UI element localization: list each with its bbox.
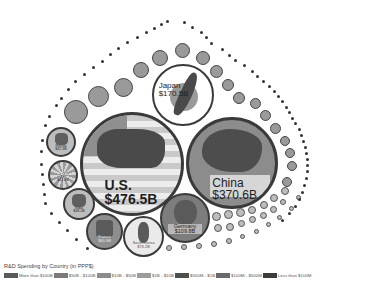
dot-marker: [67, 88, 70, 91]
dot-marker: [243, 64, 246, 67]
dot-marker: [42, 183, 45, 186]
us-map-icon: [97, 129, 166, 168]
small-bubble: [114, 78, 133, 97]
small-bubble: [64, 100, 88, 124]
dot-marker: [256, 75, 259, 78]
legend-item: More than $100B: [4, 273, 53, 278]
dot-marker: [288, 111, 291, 114]
small-bubble: [260, 110, 271, 121]
small-bubble: [175, 43, 190, 58]
tiny-bubble: [212, 212, 221, 221]
china-map-icon: [202, 129, 262, 172]
dot-marker: [228, 54, 231, 57]
dot-marker: [301, 191, 304, 194]
dot-marker: [305, 177, 308, 180]
bubble-label: France $60.8B: [88, 235, 121, 243]
dot-marker: [306, 170, 309, 173]
bubble-label: India $48.1B: [65, 207, 93, 214]
dot-marker: [251, 70, 254, 73]
tiny-bubble: [226, 223, 234, 231]
tiny-bubble: [236, 208, 245, 217]
bubble-germany: Germany $109.8B: [160, 193, 210, 243]
bubble-label: Japan $170.5B: [159, 82, 189, 98]
country-value: $48.1B: [65, 210, 93, 214]
legend-swatch: [4, 273, 18, 278]
dot-marker: [200, 31, 203, 34]
tiny-bubble: [249, 216, 256, 223]
legend-swatch: [175, 273, 189, 278]
small-bubble: [152, 50, 168, 66]
dot-marker: [268, 85, 271, 88]
dot-marker: [83, 73, 86, 76]
tiny-bubble: [240, 234, 245, 239]
legend-swatch: [97, 273, 111, 278]
tiny-bubble: [248, 206, 256, 214]
tiny-bubble: [226, 238, 232, 244]
tiny-bubble: [266, 222, 271, 227]
legend-label: $50B - $100B: [69, 273, 96, 278]
tiny-bubble: [270, 194, 278, 202]
dot-marker: [44, 202, 47, 205]
dot-marker: [50, 212, 53, 215]
dot-marker: [191, 26, 194, 29]
dot-marker: [277, 95, 280, 98]
dot-marker: [262, 80, 265, 83]
tiny-bubble: [196, 243, 202, 249]
bubble-france: France $60.8B: [86, 213, 123, 250]
legend-item: $1B - $10B: [137, 273, 174, 278]
legend-swatch: [263, 273, 277, 278]
legend-swatch: [54, 273, 68, 278]
small-bubble: [282, 177, 292, 187]
country-value: $60.8B: [88, 239, 121, 243]
dot-marker: [40, 163, 43, 166]
dot-marker: [221, 48, 224, 51]
small-bubble: [88, 86, 109, 107]
dot-marker: [273, 90, 276, 93]
dot-marker: [126, 41, 129, 44]
dot-marker: [109, 53, 112, 56]
legend-label: $1B - $10B: [152, 273, 174, 278]
country-value: $42.3B: [48, 148, 74, 152]
dot-marker: [41, 173, 44, 176]
dot-marker: [86, 247, 89, 250]
tiny-bubble: [214, 224, 222, 232]
dot-marker: [136, 36, 139, 39]
dot-marker: [300, 134, 303, 137]
country-value: $44.3B: [50, 179, 76, 183]
dot-marker: [298, 198, 301, 201]
dot-marker: [58, 221, 61, 224]
bubble-label: U.S. $476.5B: [105, 178, 158, 206]
dot-marker: [298, 128, 301, 131]
bubble-label: U.K. $44.3B: [50, 176, 76, 183]
legend-label: $10B - $50B: [112, 273, 136, 278]
dot-marker: [210, 42, 213, 45]
legend-label: $100M - $500M: [231, 273, 262, 278]
dot-marker: [285, 106, 288, 109]
small-bubble: [250, 98, 261, 109]
bubble-russia: Russia $42.3B: [46, 127, 76, 157]
dot-marker: [288, 212, 291, 215]
tiny-bubble: [254, 229, 259, 234]
country-name: U.S.: [105, 178, 158, 192]
bubble-uk: U.K. $44.3B: [48, 160, 78, 190]
country-value: $170.5B: [159, 90, 189, 98]
country-name: China: [212, 177, 257, 189]
dot-marker: [302, 140, 305, 143]
dot-marker: [160, 23, 163, 26]
dot-marker: [166, 20, 169, 23]
country-value: $476.5B: [105, 192, 158, 206]
legend: More than $100B $50B - $100B $10B - $50B…: [4, 271, 313, 279]
dot-marker: [40, 150, 43, 153]
small-bubble: [270, 123, 281, 134]
dot-marker: [294, 205, 297, 208]
dot-marker: [183, 21, 186, 24]
bubble-south-korea: South Korea $73.2B: [123, 216, 164, 257]
small-bubble: [280, 136, 290, 146]
russia-map-icon: [55, 133, 68, 145]
small-bubble: [233, 92, 245, 104]
dot-marker: [291, 117, 294, 120]
dot-marker: [306, 158, 309, 161]
dot-marker: [234, 59, 237, 62]
small-bubble: [196, 51, 210, 65]
dot-marker: [304, 146, 307, 149]
